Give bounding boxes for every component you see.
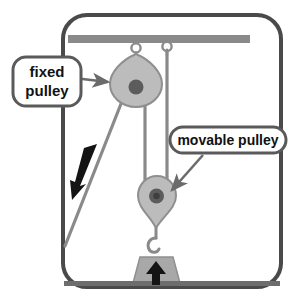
fixed-pulley-label-line-1: fixed [29, 63, 64, 80]
rope-effort-segment [65, 86, 128, 246]
fixed-pulley-callout[interactable]: fixed pulley [13, 57, 108, 106]
diagram-canvas: fixed pulley movable pulley [0, 0, 296, 301]
fixed-pulley-label-line-2: pulley [25, 82, 69, 99]
fixed-pulley-body [110, 54, 162, 107]
movable-pulley-label: movable pulley [177, 132, 278, 148]
movable-pulley-callout[interactable]: movable pulley [170, 127, 286, 190]
ceiling-beam [68, 35, 250, 43]
load-hook [148, 228, 159, 252]
fixed-pulley-hub [129, 80, 144, 95]
ground-line [64, 281, 280, 286]
movable-pulley-body [138, 176, 176, 228]
movable-pulley-callout-arrow [172, 155, 203, 190]
pulley-system-diagram: fixed pulley movable pulley [0, 0, 296, 301]
